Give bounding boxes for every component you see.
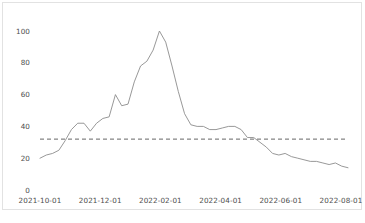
x-tick-label: 2021-12-01 <box>79 196 122 205</box>
series-line-value <box>40 31 348 168</box>
x-tick-label: 2021-10-01 <box>19 196 62 205</box>
x-tick-label: 2022-08-01 <box>320 196 363 205</box>
y-tick-label: 40 <box>4 122 30 131</box>
x-tick-label: 2022-04-01 <box>199 196 242 205</box>
x-tick-label: 2022-02-01 <box>139 196 182 205</box>
y-tick-label: 80 <box>4 58 30 67</box>
x-tick-label: 2022-06-01 <box>259 196 302 205</box>
line-chart-plot <box>0 0 365 223</box>
y-tick-label: 100 <box>4 27 30 36</box>
y-tick-label: 20 <box>4 154 30 163</box>
chart-figure: 020406080100 2021-10-012021-12-012022-02… <box>0 0 365 223</box>
y-tick-label: 60 <box>4 90 30 99</box>
y-tick-label: 0 <box>4 186 30 195</box>
